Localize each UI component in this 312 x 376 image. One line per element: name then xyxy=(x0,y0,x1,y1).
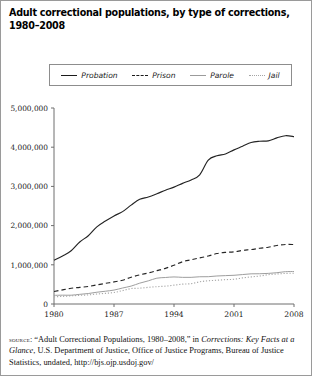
legend-label-prison: Prison xyxy=(152,71,175,80)
figure-container: Adult correctional populations, by type … xyxy=(0,0,312,376)
legend-line-parole-icon xyxy=(190,71,206,79)
x-tick-label: 1994 xyxy=(164,310,183,319)
y-tick-label: 4,000,000 xyxy=(10,143,48,152)
legend-label-parole: Parole xyxy=(210,71,234,80)
line-chart-svg: 01,000,0002,000,0003,000,0004,000,0005,0… xyxy=(1,96,312,328)
title-line-1: Adult correctional populations, by type … xyxy=(9,6,305,19)
y-tick-label: 5,000,000 xyxy=(10,104,48,113)
series-line-probation xyxy=(54,136,294,260)
data-series-group xyxy=(54,136,294,297)
source-italic-1: Corrections: xyxy=(201,335,244,344)
x-axis-ticks: 19801987199420012008 xyxy=(44,304,303,319)
x-tick-label: 2001 xyxy=(224,310,243,319)
y-tick-label: 0 xyxy=(43,300,48,309)
source-text-1: : “Adult Correctional Populations, 1980–… xyxy=(30,335,201,344)
y-tick-label: 1,000,000 xyxy=(10,261,48,270)
x-tick-label: 2008 xyxy=(284,310,303,319)
x-tick-label: 1987 xyxy=(104,310,123,319)
y-tick-label: 3,000,000 xyxy=(10,182,48,191)
legend-line-jail-icon xyxy=(249,71,265,79)
y-axis-ticks: 01,000,0002,000,0003,000,0004,000,0005,0… xyxy=(10,104,54,309)
series-line-prison xyxy=(54,244,294,291)
legend-item-probation: Probation xyxy=(61,71,117,80)
legend-label-jail: Jail xyxy=(269,71,280,80)
legend-label-probation: Probation xyxy=(81,71,117,80)
series-line-parole xyxy=(54,272,294,296)
source-note: source: “Adult Correctional Populations,… xyxy=(9,334,307,368)
chart-plot-area: 01,000,0002,000,0003,000,0004,000,0005,0… xyxy=(1,96,312,328)
chart-legend: Probation Prison Parole Jail xyxy=(49,64,292,86)
x-tick-label: 1980 xyxy=(44,310,63,319)
page-title: Adult correctional populations, by type … xyxy=(9,6,305,32)
legend-item-parole: Parole xyxy=(190,71,234,80)
title-line-2: 1980–2008 xyxy=(9,19,305,32)
source-label: source xyxy=(9,335,30,344)
y-tick-label: 2,000,000 xyxy=(10,221,48,230)
legend-item-prison: Prison xyxy=(132,71,175,80)
legend-item-jail: Jail xyxy=(249,71,280,80)
source-text-2: , U.S. Department of Justice, Office of … xyxy=(9,346,284,366)
legend-line-prison-icon xyxy=(132,71,148,79)
legend-line-probation-icon xyxy=(61,71,77,79)
